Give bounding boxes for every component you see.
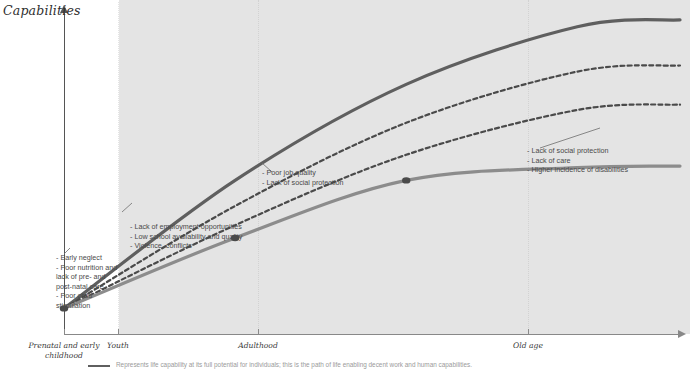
annotation-item: - Early neglect (56, 253, 117, 263)
annotation-item: - Poor nutrition and (56, 263, 117, 273)
annotation-item: - Low school availability and quality (130, 232, 242, 242)
callout-line-youth (122, 203, 132, 212)
annotation-item: - Poor child (56, 291, 117, 301)
annotation-item: - Higher incidence of disabilities (527, 165, 628, 175)
legend-line-swatch (88, 365, 110, 367)
annotation-early-childhood: - Early neglect - Poor nutrition and lac… (56, 253, 117, 311)
annotation-item: post-natal care (56, 282, 117, 292)
adulthood-marker (402, 177, 410, 183)
annotation-item: - Lack of employment opportunities (130, 222, 242, 232)
annotation-item: - Lack of care (527, 156, 628, 166)
annotation-item: - Poor job quality (262, 168, 344, 178)
curve-3 (64, 104, 680, 308)
annotation-youth: - Lack of employment opportunities - Low… (130, 222, 242, 251)
curve-layer (0, 0, 690, 371)
legend-caption: Represents life capability at its full p… (116, 361, 472, 369)
annotation-item: stimulation (56, 301, 117, 311)
annotation-adulthood: - Poor job quality - Lack of social prot… (262, 168, 344, 187)
callout-line-old-age (540, 128, 600, 148)
chart-root: Capabilities Prenatal and early childhoo… (0, 0, 690, 371)
legend: Represents life capability at its full p… (88, 361, 472, 369)
annotation-item: - Violence, conflicts (130, 241, 242, 251)
annotation-item: lack of pre- and (56, 272, 117, 282)
annotation-item: - Lack of social protection (527, 146, 628, 156)
annotation-item: - Lack of social protection (262, 178, 344, 188)
annotation-old-age: - Lack of social protection - Lack of ca… (527, 146, 628, 175)
